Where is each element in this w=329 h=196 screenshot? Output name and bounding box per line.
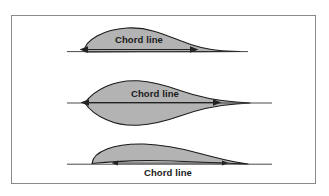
middle-airfoil-group: Chord line: [67, 81, 272, 126]
upper-chord-label: Chord line: [115, 34, 163, 45]
lower-airfoil-shape: [92, 144, 248, 164]
lower-chord-label: Chord line: [144, 167, 192, 178]
upper-airfoil-group: Chord line: [67, 28, 248, 52]
lower-airfoil-group: Chord line: [67, 144, 272, 178]
airfoil-canvas: Chord line Chord line Chord line: [0, 0, 329, 196]
middle-chord-label: Chord line: [131, 88, 179, 99]
airfoil-diagram: Chord line Chord line Chord line: [0, 0, 329, 196]
